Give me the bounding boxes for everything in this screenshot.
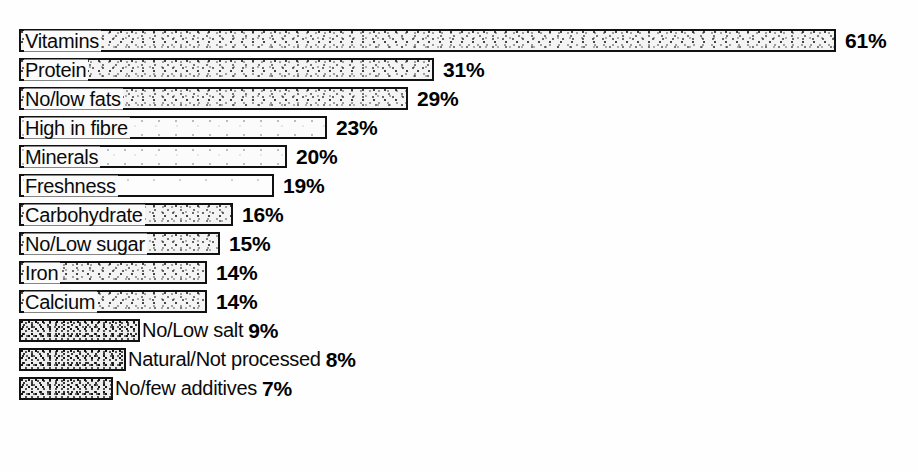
- bar: No/Low sugar: [19, 232, 220, 255]
- bar-value-label: 31%: [443, 58, 484, 82]
- bar-category-label: No/Low salt: [142, 319, 243, 342]
- bar-value-label: 15%: [229, 232, 270, 256]
- bar: Minerals: [19, 145, 287, 168]
- bar-row: High in fibre23%: [19, 113, 377, 142]
- bar-row: No/Low salt9%: [19, 316, 278, 345]
- bar: High in fibre: [19, 116, 327, 139]
- bar-category-label: High in fibre: [24, 117, 130, 138]
- bar: Protein: [19, 58, 434, 81]
- bar: [19, 348, 126, 371]
- bar-category-label: Carbohydrate: [24, 204, 145, 225]
- bar-value-label: 7%: [262, 377, 292, 401]
- bar-row: Iron14%: [19, 258, 257, 287]
- bar-category-label: Freshness: [24, 175, 118, 196]
- bar-row: No/few additives7%: [19, 374, 292, 403]
- bar-row: Vitamins61%: [19, 26, 886, 55]
- bar-chart: Vitamins61%Protein31%No/low fats29%High …: [0, 0, 918, 472]
- bar-value-label: 29%: [417, 87, 458, 111]
- bar-category-label: No/low fats: [24, 88, 123, 109]
- bar-value-label: 19%: [283, 174, 324, 198]
- bar-row: Protein31%: [19, 55, 484, 84]
- bar-row: Freshness19%: [19, 171, 324, 200]
- bar: Carbohydrate: [19, 203, 233, 226]
- bar-category-label: No/Low sugar: [24, 233, 147, 254]
- bar-value-label: 14%: [216, 290, 257, 314]
- bar: [19, 319, 140, 342]
- bar-value-label: 61%: [845, 29, 886, 53]
- bar-row: Minerals20%: [19, 142, 337, 171]
- bar-value-label: 14%: [216, 261, 257, 285]
- bar-row: No/Low sugar15%: [19, 229, 270, 258]
- bar-category-label: Vitamins: [24, 30, 101, 51]
- bar-value-label: 8%: [326, 348, 356, 372]
- bar: Vitamins: [19, 29, 836, 52]
- bar: Calcium: [19, 290, 207, 313]
- bar-category-label: Iron: [24, 262, 60, 283]
- bar-value-label: 20%: [296, 145, 337, 169]
- bar: Freshness: [19, 174, 274, 197]
- bar-category-label: Protein: [24, 59, 88, 80]
- bar: No/low fats: [19, 87, 408, 110]
- bar-row: Calcium14%: [19, 287, 257, 316]
- bar-category-label: Minerals: [24, 146, 100, 167]
- bar-row: Carbohydrate16%: [19, 200, 283, 229]
- bar-row: Natural/Not processed8%: [19, 345, 356, 374]
- bar-row: No/low fats29%: [19, 84, 458, 113]
- bar-category-label: No/few additives: [115, 377, 257, 400]
- bar-category-label: Calcium: [24, 291, 97, 312]
- bar-value-label: 9%: [248, 319, 278, 343]
- bar-value-label: 16%: [242, 203, 283, 227]
- bar: [19, 377, 113, 400]
- bar: Iron: [19, 261, 207, 284]
- bar-category-label: Natural/Not processed: [128, 348, 321, 371]
- bar-value-label: 23%: [336, 116, 377, 140]
